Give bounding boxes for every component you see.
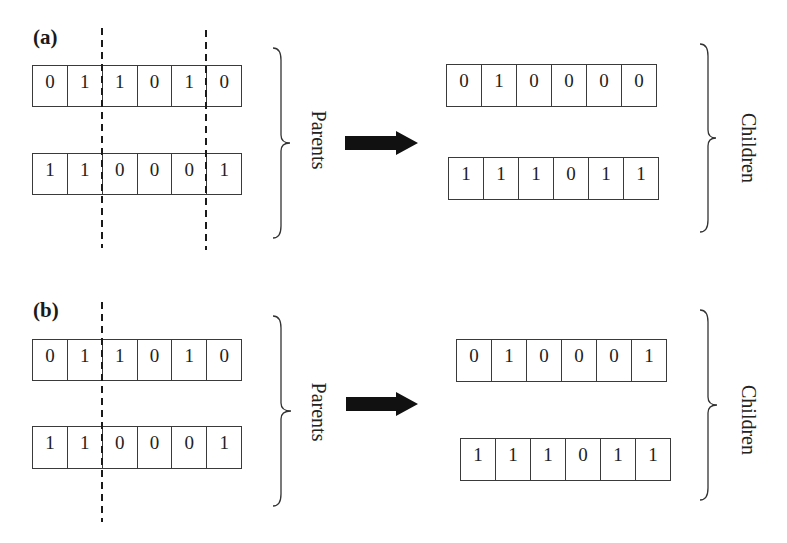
panel-label-a: (a) xyxy=(33,27,58,48)
children-brace xyxy=(700,44,716,232)
children-label: Children xyxy=(737,113,760,183)
diagram-lines-layer xyxy=(0,0,787,543)
children-brace xyxy=(700,310,717,500)
children-label: Children xyxy=(737,385,760,455)
crossover-diagram: 0110101100010100001110110110101100010100… xyxy=(0,0,787,543)
parents-label: Parents xyxy=(307,383,330,442)
parents-brace xyxy=(273,48,290,238)
parents-brace xyxy=(273,316,291,506)
right-arrow-icon xyxy=(345,131,418,155)
right-arrow-icon xyxy=(346,392,418,416)
parents-label: Parents xyxy=(307,111,330,170)
panel-label-b: (b) xyxy=(33,300,59,321)
